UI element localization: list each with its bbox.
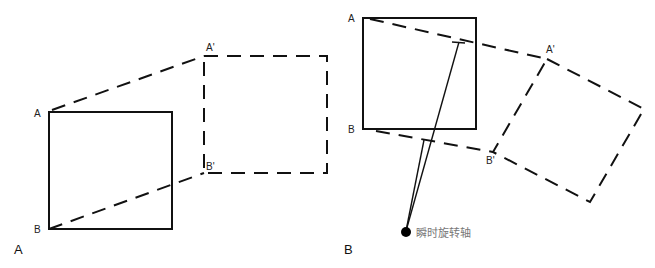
original-square xyxy=(363,18,476,129)
axis-label: 瞬时旋转轴 xyxy=(416,226,471,240)
rotated-square xyxy=(493,59,644,202)
panel-b-label: B xyxy=(344,242,353,257)
point-a-prime-label: A' xyxy=(546,44,555,55)
path-b-to-b-prime xyxy=(376,131,493,152)
point-a-label: A xyxy=(34,108,41,119)
point-b-label: B xyxy=(34,224,41,235)
diagram-canvas: A B A' B' A 瞬时旋转轴 A B A' B' B xyxy=(0,0,655,268)
point-b-prime-label: B' xyxy=(486,155,495,166)
point-a-label: A xyxy=(348,13,355,24)
panel-a-label: A xyxy=(14,242,23,257)
path-a-to-a-prime xyxy=(52,56,204,110)
point-b-label: B xyxy=(348,124,355,135)
radius-line-a xyxy=(406,42,459,231)
panel-a: A B A' B' A xyxy=(14,42,327,257)
radius-tick-a xyxy=(452,42,465,43)
point-b-prime-label: B' xyxy=(206,161,215,172)
rotation-axis-point-icon xyxy=(401,227,411,237)
original-square xyxy=(49,112,172,229)
radius-line-b xyxy=(406,140,424,231)
point-a-prime-label: A' xyxy=(206,42,215,53)
path-b-to-b-prime xyxy=(49,173,204,229)
path-a-to-a-prime xyxy=(370,19,547,59)
translated-square xyxy=(204,56,327,173)
panel-b: 瞬时旋转轴 A B A' B' B xyxy=(344,13,644,257)
